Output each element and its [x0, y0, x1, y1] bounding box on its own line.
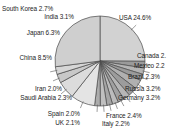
slice-label-germany: Germany 3.2%: [118, 94, 160, 101]
slice-label-brazil: Brazil 2.3%: [128, 73, 160, 80]
leader-line-usa: [131, 25, 136, 30]
slice-label-iran: Iran 2.0%: [2, 85, 62, 92]
slice-label-mexico: Mexico 2.2: [134, 62, 164, 69]
slice-label-italy: Italy 2.2%: [102, 120, 130, 127]
slice-label-china: China 8.5%: [2, 54, 52, 61]
slice-label-canada: Canada 2.: [137, 52, 166, 59]
slice-label-saudi-arabia: Saudi Arabia 2.3%: [0, 94, 72, 101]
pie-slice-other: [55, 16, 100, 67]
slice-label-india: India 3.1%: [2, 13, 74, 20]
slice-label-usa: USA 24.6%: [119, 14, 151, 21]
slice-label-spain: Spain 2.0%: [40, 110, 80, 117]
slice-label-south-korea: South Korea 2.7%: [2, 5, 53, 12]
slice-label-uk: UK 2.1%: [46, 119, 80, 126]
pie-chart-figure: South Korea 2.7% India 3.1% Japan 6.3% C…: [0, 0, 174, 130]
slice-label-russia: Russia 3.2%: [125, 85, 160, 92]
slice-label-france: France 2.4%: [106, 112, 142, 119]
slice-label-japan: Japan 6.3%: [2, 29, 60, 36]
